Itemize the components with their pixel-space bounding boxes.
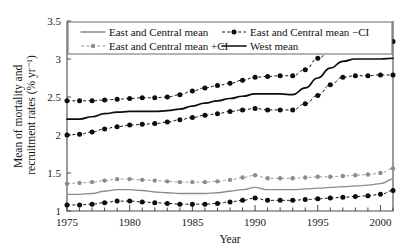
series-marker	[391, 72, 396, 77]
legend-swatch-marker	[91, 44, 95, 48]
series-marker	[341, 174, 345, 178]
x-tick-label: 1975	[56, 216, 79, 228]
series-marker	[127, 177, 131, 181]
series-marker	[77, 132, 82, 137]
series-marker	[278, 198, 283, 203]
series-marker	[165, 95, 170, 100]
series-marker	[215, 179, 219, 183]
y-tick-label: 1.5	[47, 167, 61, 179]
line-chart: Mean of mortality and recruitment rates …	[0, 0, 418, 250]
series-marker	[328, 82, 333, 87]
y-axis-title-group: Mean of mortality and recruitment rates …	[12, 55, 38, 175]
series-marker	[77, 98, 82, 103]
series-layer	[65, 39, 396, 207]
series-marker	[315, 196, 320, 201]
legend-label: East and Central mean −CI	[250, 26, 370, 38]
series-marker	[177, 92, 182, 97]
series-marker	[65, 181, 69, 185]
series-marker	[228, 178, 232, 182]
figure-container: Mean of mortality and recruitment rates …	[0, 0, 418, 250]
series-marker	[240, 175, 244, 179]
series-marker	[127, 96, 132, 101]
series-marker	[190, 180, 194, 184]
series-marker	[365, 73, 370, 78]
series-marker	[77, 181, 81, 185]
series-marker	[165, 201, 170, 206]
series-marker	[253, 75, 258, 80]
series-marker	[190, 88, 195, 93]
series-marker	[178, 180, 182, 184]
series-marker	[152, 200, 157, 205]
series-marker	[215, 201, 220, 206]
series-marker	[140, 178, 144, 182]
series-marker	[90, 129, 95, 134]
series-marker	[265, 107, 270, 112]
series-marker	[290, 176, 294, 180]
series-marker	[366, 172, 370, 176]
series-marker	[253, 173, 257, 177]
series-marker	[90, 180, 94, 184]
series-marker	[228, 109, 233, 114]
series-marker	[102, 178, 106, 182]
series-marker	[378, 72, 383, 77]
series-marker	[202, 202, 207, 207]
x-tick-label: 1980	[119, 216, 142, 228]
y-tick-label: 2.5	[47, 91, 61, 103]
series-marker	[315, 56, 320, 61]
series-marker	[253, 196, 258, 201]
series-marker	[153, 178, 157, 182]
series-marker	[152, 95, 157, 100]
legend-label: East and Central mean	[109, 26, 209, 38]
series-marker	[240, 107, 245, 112]
legend-swatch-marker	[232, 30, 237, 35]
series-marker	[177, 202, 182, 207]
series-marker	[340, 195, 345, 200]
series-marker	[290, 73, 295, 78]
series-marker	[102, 200, 107, 205]
legend-label: East and Central mean +CI	[109, 40, 229, 52]
series-marker	[353, 173, 357, 177]
series-marker	[328, 196, 333, 201]
series-marker	[303, 67, 308, 72]
series-marker	[378, 192, 383, 197]
series-marker	[328, 175, 332, 179]
series-marker	[190, 115, 195, 120]
series-marker	[115, 199, 120, 204]
series-marker	[228, 81, 233, 86]
y-tick-label: 2	[56, 129, 62, 141]
series-marker	[316, 175, 320, 179]
series-marker	[303, 197, 308, 202]
x-tick-label: 1995	[307, 216, 330, 228]
series-marker	[240, 198, 245, 203]
series-marker	[253, 106, 258, 111]
y-axis-title: Mean of mortality and recruitment rates …	[12, 55, 38, 175]
series-marker	[152, 121, 157, 126]
series-marker	[340, 75, 345, 80]
series-marker	[353, 73, 358, 78]
series-marker	[391, 188, 396, 193]
x-axis-title: Year	[219, 233, 240, 245]
series-marker	[265, 74, 270, 79]
series-marker	[115, 124, 120, 129]
series-marker	[190, 202, 195, 207]
series-marker	[365, 193, 370, 198]
series-marker	[115, 97, 120, 102]
x-tick-label: 2000	[369, 216, 392, 228]
series-marker	[127, 123, 132, 128]
series-marker	[140, 95, 145, 100]
series-marker	[165, 179, 169, 183]
series-marker	[202, 113, 207, 118]
series-marker	[215, 83, 220, 88]
series-marker	[90, 202, 95, 207]
chart-legend: East and Central meanEast and Central me…	[68, 22, 392, 54]
series-marker	[65, 98, 70, 103]
series-marker	[265, 176, 269, 180]
x-tick-label: 1990	[244, 216, 267, 228]
series-marker	[278, 73, 283, 78]
series-marker	[90, 98, 95, 103]
series-marker	[203, 180, 207, 184]
series-marker	[228, 199, 233, 204]
series-marker	[202, 85, 207, 90]
series-marker	[65, 133, 70, 138]
series-marker	[140, 199, 145, 204]
